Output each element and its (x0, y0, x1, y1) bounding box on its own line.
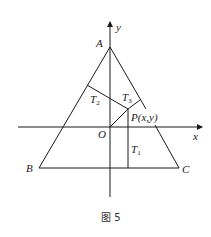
triangle-diagram: A B C O y x P(x,y) T2 T3 T1 图 5 (0, 0, 211, 237)
vertex-label-B: B (26, 162, 33, 174)
side-AB (39, 47, 110, 168)
T2-label: T2 (90, 93, 100, 107)
T1-label: T1 (131, 143, 141, 157)
origin-label: O (98, 128, 106, 140)
side-AC-lower (155, 125, 179, 168)
segment-OP (110, 109, 128, 127)
figure-caption: 图 5 (101, 212, 121, 223)
vertex-label-A: A (95, 37, 103, 49)
T3-label: T3 (122, 91, 132, 105)
y-axis-label: y (115, 21, 121, 33)
vertex-label-C: C (182, 163, 190, 175)
x-axis-label: x (192, 130, 198, 142)
point-P-label: P(x,y) (130, 111, 158, 124)
